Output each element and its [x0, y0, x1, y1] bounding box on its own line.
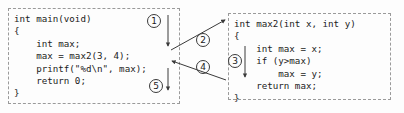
step-marker-2: 2	[196, 33, 210, 47]
main-function-code: int main(void) { int max; max = max2(3, …	[14, 13, 147, 100]
diagram-canvas: int main(void) { int max; max = max2(3, …	[0, 0, 404, 113]
max2-function-code: int max2(int x, int y) { int max = x; if…	[234, 18, 356, 105]
step-marker-1: 1	[147, 14, 161, 28]
step-marker-5: 5	[149, 79, 163, 93]
step-marker-4: 4	[196, 60, 210, 74]
step-marker-3: 3	[228, 54, 242, 68]
